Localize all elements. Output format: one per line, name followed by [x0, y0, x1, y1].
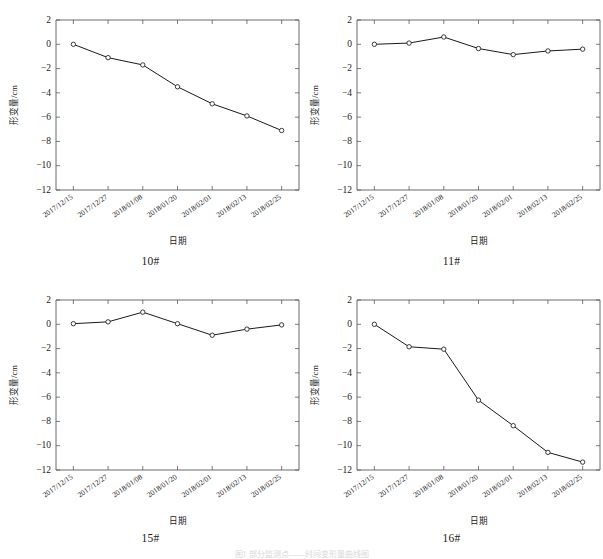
data-point-marker [511, 52, 515, 56]
data-point-marker [71, 321, 75, 325]
x-tick-label: 2018/02/25 [550, 472, 584, 499]
y-tick-label: −8 [41, 416, 51, 426]
figure-caption: 图1 部分监测点——时间变形量曲线图 [0, 548, 603, 559]
data-point-marker [175, 321, 179, 325]
x-tick-label: 2018/01/20 [145, 472, 179, 499]
y-axis-title: 形变量/cm [309, 365, 320, 405]
y-tick-label: −4 [41, 88, 51, 98]
y-tick-label: 0 [46, 319, 51, 329]
chart-panel-10: 20−2−4−6−8−10−122017/12/152017/12/272018… [0, 0, 301, 279]
y-axis-ticks: 20−2−4−6−8−10−12 [337, 15, 600, 195]
x-tick-label: 2017/12/15 [41, 192, 75, 219]
x-tick-label: 2018/01/08 [110, 472, 144, 499]
x-tick-label: 2018/02/13 [215, 192, 249, 219]
data-point-marker [407, 41, 411, 45]
y-axis-ticks: 20−2−4−6−8−10−12 [36, 295, 299, 475]
y-tick-label: 2 [46, 295, 51, 305]
axis-frame [56, 20, 299, 190]
deformation-figure: 20−2−4−6−8−10−122017/12/152017/12/272018… [0, 0, 603, 559]
y-tick-label: −2 [41, 63, 51, 73]
chart-panel-15: 20−2−4−6−8−10−122017/12/152017/12/272018… [0, 280, 301, 559]
y-tick-label: −10 [337, 160, 352, 170]
data-point-marker [279, 128, 283, 132]
plot-area-16: 20−2−4−6−8−10−122017/12/152017/12/272018… [301, 280, 602, 559]
y-tick-label: −4 [41, 368, 51, 378]
data-point-marker [476, 46, 480, 50]
x-axis-title: 日期 [470, 516, 488, 526]
y-tick-label: 2 [347, 295, 352, 305]
data-point-marker [580, 460, 584, 464]
data-point-marker [546, 450, 550, 454]
y-tick-label: −12 [36, 465, 51, 475]
data-point-marker [442, 35, 446, 39]
data-point-marker [407, 345, 411, 349]
y-tick-label: 0 [347, 39, 352, 49]
y-tick-label: −2 [41, 343, 51, 353]
x-axis-title: 日期 [169, 516, 187, 526]
data-point-marker [580, 47, 584, 51]
y-tick-label: 2 [347, 15, 352, 25]
y-tick-label: −10 [36, 440, 51, 450]
y-tick-label: −8 [342, 416, 352, 426]
y-tick-label: −8 [41, 136, 51, 146]
x-tick-label: 2017/12/27 [76, 192, 110, 219]
plot-area-15: 20−2−4−6−8−10−122017/12/152017/12/272018… [0, 280, 301, 559]
x-axis-title: 日期 [169, 236, 187, 246]
y-axis-ticks: 20−2−4−6−8−10−12 [337, 295, 600, 475]
plot-area-11: 20−2−4−6−8−10−122017/12/152017/12/272018… [301, 0, 602, 279]
axis-frame [357, 300, 600, 470]
data-point-marker [210, 333, 214, 337]
y-tick-label: −6 [342, 392, 352, 402]
chart-panel-11: 20−2−4−6−8−10−122017/12/152017/12/272018… [301, 0, 602, 279]
data-point-marker [372, 322, 376, 326]
y-tick-label: −10 [36, 160, 51, 170]
x-tick-label: 2017/12/15 [41, 472, 75, 499]
x-tick-label: 2017/12/27 [377, 472, 411, 499]
x-tick-label: 2017/12/15 [342, 192, 376, 219]
x-tick-label: 2018/01/20 [145, 192, 179, 219]
data-point-marker [511, 423, 515, 427]
panel-caption-15: 15# [0, 532, 301, 544]
panel-caption-11: 11# [301, 255, 602, 267]
data-point-marker [245, 327, 249, 331]
x-axis-title: 日期 [470, 236, 488, 246]
x-tick-label: 2018/01/08 [110, 192, 144, 219]
y-tick-label: −2 [342, 63, 352, 73]
y-tick-label: −12 [337, 185, 352, 195]
axis-frame [357, 20, 600, 190]
x-tick-label: 2018/01/08 [411, 472, 445, 499]
y-tick-label: −4 [342, 368, 352, 378]
x-tick-label: 2017/12/27 [76, 472, 110, 499]
chart-panel-16: 20−2−4−6−8−10−122017/12/152017/12/272018… [301, 280, 602, 559]
panel-caption-16: 16# [301, 532, 602, 544]
y-tick-label: −10 [337, 440, 352, 450]
y-axis-ticks: 20−2−4−6−8−10−12 [36, 15, 299, 195]
x-tick-label: 2018/02/01 [180, 192, 214, 219]
y-axis-title: 形变量/cm [8, 85, 19, 125]
y-tick-label: −6 [41, 112, 51, 122]
x-tick-label: 2017/12/27 [377, 192, 411, 219]
x-tick-label: 2018/02/13 [516, 472, 550, 499]
data-point-marker [546, 49, 550, 53]
data-point-marker [106, 55, 110, 59]
y-tick-label: 0 [347, 319, 352, 329]
y-tick-label: −12 [36, 185, 51, 195]
data-point-marker [71, 42, 75, 46]
x-tick-label: 2018/01/08 [411, 192, 445, 219]
y-tick-label: 2 [46, 15, 51, 25]
y-tick-label: −2 [342, 343, 352, 353]
data-point-marker [372, 42, 376, 46]
x-tick-label: 2018/02/01 [180, 472, 214, 499]
y-axis-title: 形变量/cm [8, 365, 19, 405]
x-tick-label: 2018/02/25 [249, 472, 283, 499]
data-point-marker [141, 63, 145, 67]
panel-caption-10: 10# [0, 255, 301, 267]
data-point-marker [279, 323, 283, 327]
x-tick-label: 2018/02/25 [249, 192, 283, 219]
y-tick-label: −6 [41, 392, 51, 402]
data-point-marker [175, 85, 179, 89]
x-tick-label: 2018/02/13 [215, 472, 249, 499]
data-point-marker [442, 347, 446, 351]
x-tick-label: 2018/01/20 [446, 192, 480, 219]
x-tick-label: 2017/12/15 [342, 472, 376, 499]
